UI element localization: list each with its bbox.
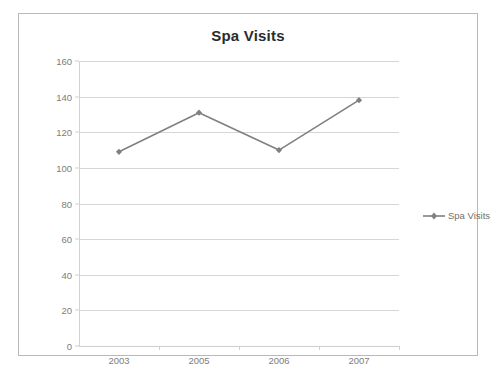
y-tick-label-120: 120 bbox=[56, 127, 72, 138]
y-tick-label-140: 140 bbox=[56, 91, 72, 102]
legend-marker-icon bbox=[423, 211, 445, 221]
y-tick-label-60: 60 bbox=[61, 234, 72, 245]
legend-label-spa-visits: Spa Visits bbox=[448, 210, 490, 221]
y-tick-label-100: 100 bbox=[56, 162, 72, 173]
x-tick-mark-3 bbox=[399, 346, 400, 350]
x-tick-mark-2 bbox=[319, 346, 320, 350]
x-tick-mark-0 bbox=[159, 346, 160, 350]
series-polyline bbox=[119, 100, 359, 152]
x-tick-mark-1 bbox=[239, 346, 240, 350]
data-point-2005 bbox=[196, 110, 202, 116]
x-tick-label-2005: 2005 bbox=[188, 355, 209, 366]
chart-frame: Spa Visits 020406080100120140160 2003200… bbox=[18, 13, 478, 356]
x-tick-label-2006: 2006 bbox=[268, 355, 289, 366]
y-tick-label-20: 20 bbox=[61, 305, 72, 316]
data-point-2003 bbox=[116, 149, 122, 155]
y-tick-label-80: 80 bbox=[61, 198, 72, 209]
bottom-caption bbox=[18, 370, 480, 381]
y-tick-label-0: 0 bbox=[67, 341, 72, 352]
x-tick-label-2007: 2007 bbox=[348, 355, 369, 366]
y-tick-label-160: 160 bbox=[56, 56, 72, 67]
series-line-spa-visits bbox=[79, 61, 399, 346]
chart-title: Spa Visits bbox=[19, 27, 477, 44]
y-tick-label-40: 40 bbox=[61, 269, 72, 280]
x-tick-label-2003: 2003 bbox=[108, 355, 129, 366]
series-markers bbox=[116, 97, 362, 155]
plot-area: 020406080100120140160 2003200520062007 bbox=[79, 61, 399, 346]
chart-legend: Spa Visits bbox=[423, 210, 490, 221]
